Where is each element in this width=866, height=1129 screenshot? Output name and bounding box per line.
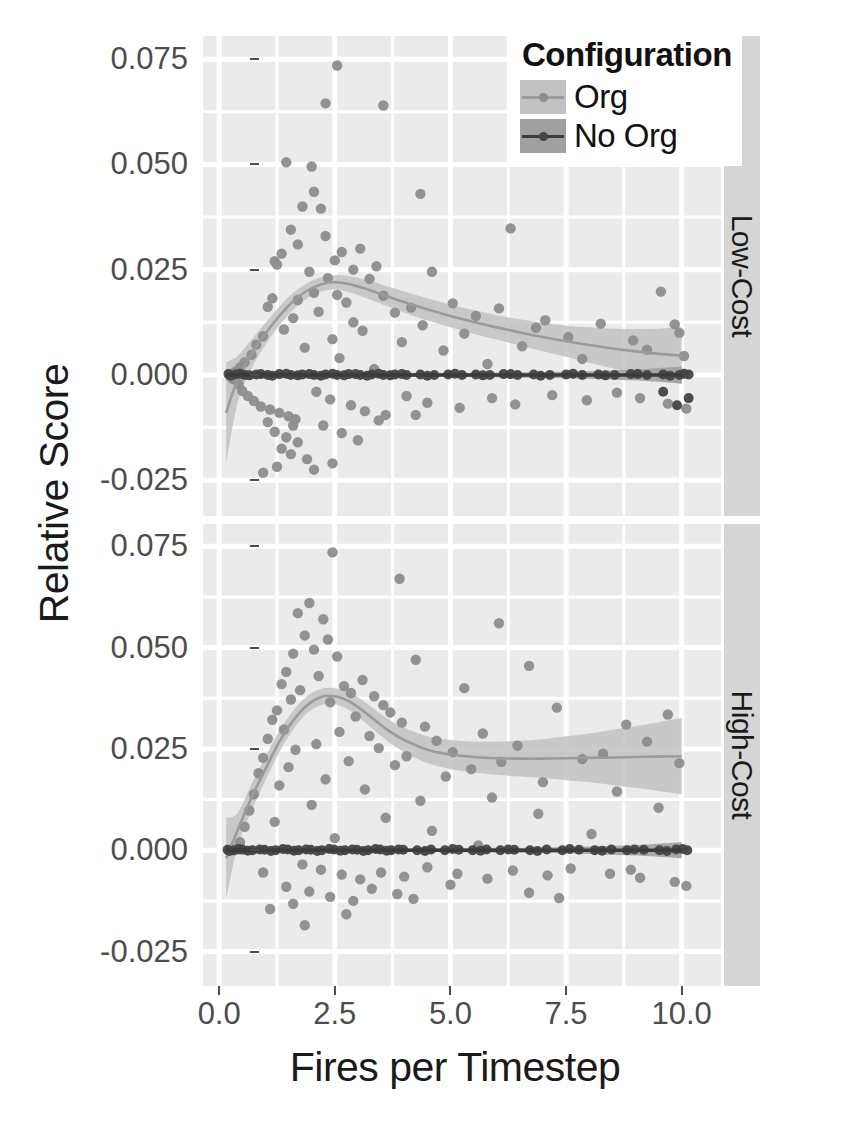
legend-item-no-org[interactable]: No Org <box>520 117 732 155</box>
chart-figure: Relative Score Fires per Timestep Low-Co… <box>0 0 866 1129</box>
x-tick-label: 10.0 <box>622 998 742 1029</box>
y-tick-mark <box>250 849 259 851</box>
y-tick-mark <box>250 479 259 481</box>
y-tick-label: -0.025 <box>58 464 188 495</box>
x-tick-mark <box>565 986 567 995</box>
x-tick-mark <box>681 986 683 995</box>
y-tick-label: 0.000 <box>58 834 188 865</box>
y-tick-label: -0.025 <box>58 936 188 967</box>
y-tick-label: 0.025 <box>58 254 188 285</box>
y-tick-mark <box>250 647 259 649</box>
legend-title: Configuration <box>522 36 732 74</box>
x-tick-mark <box>218 986 220 995</box>
y-tick-mark <box>250 58 259 60</box>
legend-label-no-org: No Org <box>574 117 677 155</box>
facet-strip-high-cost: High-Cost <box>724 524 760 986</box>
legend-key-no-org-icon <box>520 119 566 153</box>
x-tick-mark <box>449 986 451 995</box>
y-tick-mark <box>250 269 259 271</box>
x-tick-label: 2.5 <box>275 998 395 1029</box>
y-tick-mark <box>250 163 259 165</box>
plot-area-high-cost <box>203 524 721 986</box>
panel-high-cost <box>203 524 721 986</box>
y-tick-label: 0.050 <box>58 632 188 663</box>
y-tick-mark <box>250 374 259 376</box>
y-tick-mark <box>250 951 259 953</box>
y-tick-mark <box>250 545 259 547</box>
facet-strip-label-low-cost: Low-Cost <box>725 215 759 338</box>
x-tick-mark <box>334 986 336 995</box>
legend-item-org[interactable]: Org <box>520 78 732 116</box>
x-tick-label: 7.5 <box>506 998 626 1029</box>
legend-key-org-icon <box>520 80 566 114</box>
x-tick-label: 0.0 <box>159 998 279 1029</box>
y-tick-label: 0.075 <box>58 530 188 561</box>
y-tick-label: 0.000 <box>58 359 188 390</box>
facet-strip-label-high-cost: High-Cost <box>725 691 759 820</box>
y-tick-label: 0.025 <box>58 733 188 764</box>
y-tick-label: 0.075 <box>58 43 188 74</box>
legend: Configuration Org No Org <box>510 30 742 166</box>
y-tick-mark <box>250 748 259 750</box>
x-axis-title: Fires per Timestep <box>185 1044 725 1091</box>
x-tick-label: 5.0 <box>390 998 510 1029</box>
y-tick-label: 0.050 <box>58 148 188 179</box>
legend-label-org: Org <box>574 78 628 116</box>
